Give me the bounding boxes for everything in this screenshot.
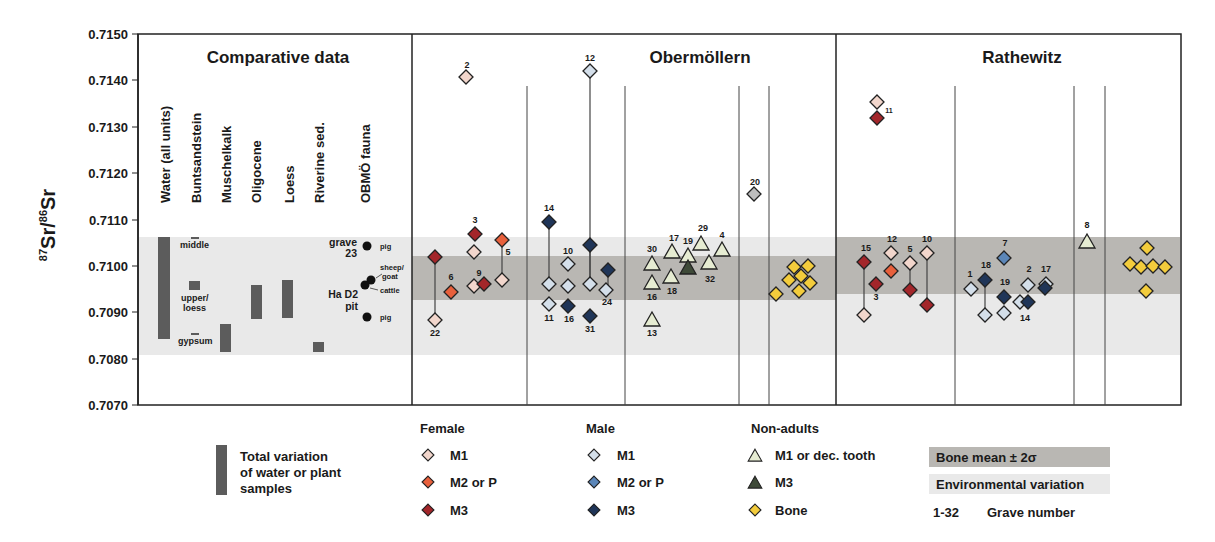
svg-text:12: 12 — [585, 53, 595, 63]
svg-text:87Sr/86Sr: 87Sr/86Sr — [37, 189, 59, 262]
svg-text:16: 16 — [647, 292, 657, 302]
y-tick-label: 0.7140 — [88, 73, 128, 88]
svg-text:12: 12 — [887, 234, 897, 244]
y-tick-label: 0.7100 — [88, 259, 128, 274]
svg-text:M1 or dec. tooth: M1 or dec. tooth — [775, 448, 875, 463]
y-tick-label: 0.7090 — [88, 305, 128, 320]
svg-text:Grave number: Grave number — [987, 505, 1075, 520]
svg-text:15: 15 — [861, 243, 871, 253]
svg-text:29: 29 — [698, 223, 708, 233]
svg-text:32: 32 — [705, 274, 715, 284]
svg-text:Bone: Bone — [775, 503, 808, 518]
svg-text:6: 6 — [448, 272, 453, 282]
svg-text:19: 19 — [1000, 277, 1010, 287]
svg-text:Buntsandstein: Buntsandstein — [189, 113, 204, 203]
svg-text:M1: M1 — [617, 448, 635, 463]
svg-text:Muschelkalk: Muschelkalk — [219, 125, 234, 203]
svg-text:11: 11 — [885, 107, 893, 114]
svg-text:18: 18 — [981, 260, 991, 270]
svg-text:22: 22 — [430, 328, 440, 338]
y-axis-title: 87Sr/86Sr — [37, 189, 59, 262]
y-tick-label: 0.7080 — [88, 352, 128, 367]
svg-text:Water (all units): Water (all units) — [158, 106, 173, 203]
svg-text:16: 16 — [564, 314, 574, 324]
panel-title-rathewitz: Rathewitz — [982, 48, 1061, 67]
svg-text:M3: M3 — [775, 475, 793, 490]
svg-text:31: 31 — [585, 324, 595, 334]
svg-text:Bone mean ± 2σ: Bone mean ± 2σ — [936, 450, 1037, 465]
svg-text:30: 30 — [647, 244, 657, 254]
legend-range-bar-swatch — [216, 445, 227, 495]
svg-text:1: 1 — [967, 269, 972, 279]
comparative-column-labels: Water (all units) Buntsandstein Muschelk… — [158, 106, 373, 203]
svg-text:18: 18 — [667, 286, 677, 296]
svg-text:samples: samples — [240, 481, 292, 496]
svg-text:OBMÖ fauna: OBMÖ fauna — [358, 124, 373, 203]
svg-text:M1: M1 — [450, 448, 468, 463]
svg-text:10: 10 — [563, 246, 573, 256]
legend-female-title: Female — [420, 421, 465, 436]
svg-text:sheep/: sheep/ — [380, 263, 405, 272]
svg-text:M2 or P: M2 or P — [617, 475, 664, 490]
svg-text:17: 17 — [669, 233, 679, 243]
svg-text:24: 24 — [602, 297, 612, 307]
svg-text:goat: goat — [382, 272, 398, 281]
svg-text:M3: M3 — [450, 503, 468, 518]
strontium-isotope-chart: 0.7150 0.7140 0.7130 0.7120 0.7110 0.710… — [0, 0, 1215, 542]
y-axis: 0.7150 0.7140 0.7130 0.7120 0.7110 0.710… — [37, 27, 138, 413]
y-tick-label: 0.7120 — [88, 166, 128, 181]
y-tick-label: 0.7150 — [88, 27, 128, 42]
svg-text:23: 23 — [345, 247, 357, 259]
panel-title-obermoellern: Obermöllern — [649, 48, 750, 67]
rathewitz-nonadult-label: 8 — [1084, 220, 1089, 230]
svg-text:3: 3 — [873, 292, 878, 302]
svg-text:17: 17 — [1041, 264, 1051, 274]
svg-text:pig: pig — [380, 313, 392, 322]
svg-text:10: 10 — [922, 234, 932, 244]
svg-text:Oligocene: Oligocene — [249, 140, 264, 203]
svg-text:5: 5 — [505, 247, 510, 257]
legend-male-title: Male — [586, 421, 615, 436]
svg-text:middle: middle — [180, 240, 209, 250]
svg-text:14: 14 — [1020, 313, 1030, 323]
svg-text:upper/: upper/ — [181, 293, 209, 303]
svg-text:cattle: cattle — [380, 286, 400, 295]
svg-text:loess: loess — [183, 303, 206, 313]
y-tick-label: 0.7130 — [88, 120, 128, 135]
svg-text:13: 13 — [647, 328, 657, 338]
svg-text:Loess: Loess — [282, 165, 297, 203]
svg-text:Total variation: Total variation — [240, 449, 328, 464]
svg-text:Riverine sed.: Riverine sed. — [312, 122, 327, 203]
svg-text:M3: M3 — [617, 503, 635, 518]
legend: Total variation of water or plant sample… — [216, 421, 1110, 520]
svg-text:M2 or P: M2 or P — [450, 475, 497, 490]
svg-text:19: 19 — [683, 236, 693, 246]
y-tick-label: 0.7070 — [88, 398, 128, 413]
y-tick-label: 0.7110 — [89, 213, 128, 228]
svg-text:7: 7 — [1002, 238, 1007, 248]
svg-text:3: 3 — [472, 215, 477, 225]
svg-text:gypsum: gypsum — [178, 336, 213, 346]
svg-text:of water or plant: of water or plant — [240, 465, 342, 480]
svg-text:pit: pit — [345, 300, 358, 312]
svg-text:20: 20 — [750, 177, 760, 187]
svg-text:11: 11 — [544, 313, 554, 323]
svg-text:1-32: 1-32 — [933, 505, 959, 520]
svg-text:5: 5 — [907, 244, 912, 254]
svg-text:2: 2 — [1026, 264, 1031, 274]
svg-text:2: 2 — [464, 60, 469, 70]
svg-text:Environmental variation: Environmental variation — [936, 477, 1084, 492]
svg-text:4: 4 — [719, 230, 724, 240]
svg-text:9: 9 — [476, 268, 481, 278]
panel-title-comparative: Comparative data — [207, 48, 350, 67]
svg-text:14: 14 — [544, 203, 554, 213]
svg-text:pig: pig — [380, 242, 392, 251]
legend-nonadults-title: Non-adults — [751, 421, 819, 436]
svg-text:Ha D2: Ha D2 — [328, 288, 358, 300]
